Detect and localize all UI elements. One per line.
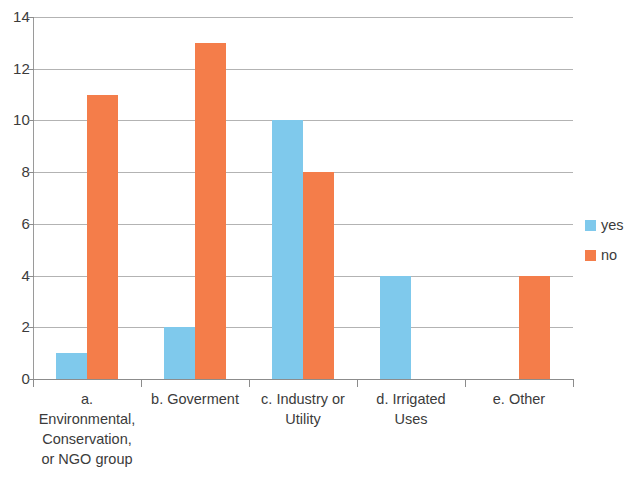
y-tick-mark-12 [28, 69, 34, 70]
x-tick-mark-1 [141, 380, 142, 387]
y-tick-mark-10 [28, 120, 34, 121]
bar-no-cat2[interactable] [195, 43, 226, 379]
x-category-label-5: e. Other [465, 389, 573, 409]
x-category-label-2: b. Goverment [141, 389, 249, 409]
x-category-label-line: Environmental, [33, 409, 141, 429]
x-category-label-line: a. [33, 389, 141, 409]
x-category-label-line: Uses [357, 409, 465, 429]
bar-no-cat5[interactable] [519, 276, 550, 379]
x-category-label-4: d. IrrigatedUses [357, 389, 465, 429]
bar-no-cat3[interactable] [303, 172, 334, 379]
x-category-label-1: a.Environmental,Conservation,or NGO grou… [33, 389, 141, 469]
x-category-label-line: or NGO group [33, 449, 141, 469]
x-category-label-line: b. Goverment [141, 389, 249, 409]
bar-yes-cat4[interactable] [380, 276, 411, 379]
x-category-label-line: e. Other [465, 389, 573, 409]
y-tick-mark-14 [28, 17, 34, 18]
x-axis-category-labels: a.Environmental,Conservation,or NGO grou… [33, 389, 573, 483]
y-tick-label-10: 10 [2, 112, 30, 127]
bar-yes-cat3[interactable] [272, 120, 303, 379]
x-tick-mark-0 [33, 380, 34, 387]
y-axis-ticks: 14121086420 [0, 0, 30, 483]
bar-yes-cat2[interactable] [164, 327, 195, 379]
y-tick-label-8: 8 [2, 164, 30, 179]
x-tick-mark-2 [249, 380, 250, 387]
x-category-label-line: d. Irrigated [357, 389, 465, 409]
x-axis-line [33, 379, 574, 380]
y-tick-label-6: 6 [2, 216, 30, 231]
y-tick-mark-8 [28, 172, 34, 173]
y-tick-label-12: 12 [2, 61, 30, 76]
legend-item-yes[interactable]: yes [585, 216, 625, 246]
x-category-label-3: c. Industry orUtility [249, 389, 357, 429]
y-tick-mark-6 [28, 224, 34, 225]
legend-item-no[interactable]: no [585, 246, 625, 276]
x-category-label-line: Utility [249, 409, 357, 429]
legend-swatch-yes-icon [585, 220, 596, 231]
y-tick-label-14: 14 [2, 9, 30, 24]
y-tick-mark-4 [28, 276, 34, 277]
bar-no-cat1[interactable] [87, 95, 118, 379]
y-tick-label-2: 2 [2, 319, 30, 334]
legend-label-yes: yes [601, 216, 624, 234]
y-tick-mark-0 [28, 379, 34, 380]
y-tick-label-4: 4 [2, 268, 30, 283]
x-category-label-line: Conservation, [33, 429, 141, 449]
y-tick-label-0: 0 [2, 371, 30, 386]
legend-label-no: no [601, 246, 617, 264]
y-tick-mark-2 [28, 327, 34, 328]
x-tick-mark-3 [357, 380, 358, 387]
x-tick-mark-5 [573, 380, 574, 387]
bar-yes-cat1[interactable] [56, 353, 87, 379]
bars-layer [33, 17, 573, 379]
x-tick-mark-4 [465, 380, 466, 387]
legend: yes no [585, 216, 625, 276]
x-category-label-line: c. Industry or [249, 389, 357, 409]
legend-swatch-no-icon [585, 250, 596, 261]
